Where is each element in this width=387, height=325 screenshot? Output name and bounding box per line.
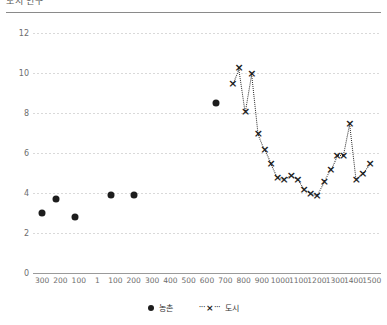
x-axis-tick-label: 1000 (271, 276, 290, 285)
plot-area: 0246810123002001001100200300400500600700… (33, 33, 381, 273)
legend-item[interactable]: ···×···도시 (199, 302, 239, 313)
gridline-y-4 (33, 193, 381, 194)
data-point-농촌 (72, 214, 79, 221)
gridline-y-8 (33, 113, 381, 114)
line-segment (349, 123, 356, 179)
y-axis-tick-label: 10 (19, 69, 29, 78)
data-point-도시 (267, 159, 276, 168)
data-point-도시 (260, 145, 269, 154)
gridline-y-10 (33, 73, 381, 74)
y-axis-tick-label: 12 (19, 29, 29, 38)
y-axis-tick-label: 0 (24, 269, 29, 278)
data-point-도시 (254, 129, 263, 138)
data-point-도시 (247, 69, 256, 78)
gridline-y-12 (33, 33, 381, 34)
legend-circle-icon (148, 305, 154, 311)
x-axis-tick-label: 300 (145, 276, 159, 285)
y-axis-tick-label: 6 (24, 149, 29, 158)
x-axis-tick-label: 500 (182, 276, 196, 285)
data-point-도시 (241, 107, 250, 116)
gridline-y-6 (33, 153, 381, 154)
data-point-농촌 (39, 210, 46, 217)
chart-legend: 농촌···×···도시 (0, 302, 387, 313)
x-axis-tick-label: 700 (218, 276, 232, 285)
gridline-y-2 (33, 233, 381, 234)
x-axis-tick-label: 300 (35, 276, 49, 285)
x-axis-tick-label: 400 (163, 276, 177, 285)
chart-page: 도시 인구 0246810123002001001100200300400500… (0, 0, 387, 325)
data-point-도시 (345, 119, 354, 128)
legend-item[interactable]: 농촌 (148, 302, 173, 313)
data-point-도시 (320, 177, 329, 186)
x-axis-tick-label: 1500 (362, 276, 381, 285)
x-axis-tick-label: 1 (95, 276, 100, 285)
data-point-도시 (235, 63, 244, 72)
y-axis-tick-label: 2 (24, 229, 29, 238)
page-title: 도시 인구 (6, 0, 43, 7)
x-axis-tick-label: 800 (236, 276, 250, 285)
legend-label: 농촌 (159, 302, 173, 313)
data-point-도시 (339, 151, 348, 160)
x-axis-tick-label: 200 (127, 276, 141, 285)
line-segment (251, 73, 258, 133)
data-point-농촌 (130, 192, 137, 199)
x-axis-tick-label: 1200 (307, 276, 326, 285)
data-point-농촌 (52, 196, 59, 203)
data-point-도시 (312, 191, 321, 200)
y-axis-tick-label: 4 (24, 189, 29, 198)
data-point-도시 (358, 169, 367, 178)
data-point-농촌 (107, 192, 114, 199)
data-point-도시 (228, 79, 237, 88)
x-axis-tick-label: 600 (200, 276, 214, 285)
x-axis-tick-label: 900 (255, 276, 269, 285)
data-point-도시 (366, 159, 375, 168)
gridline-y-0 (33, 273, 381, 274)
x-axis-tick-label: 1100 (289, 276, 308, 285)
data-point-농촌 (213, 100, 220, 107)
legend-label: 도시 (225, 302, 239, 313)
x-axis-tick-label: 1400 (344, 276, 363, 285)
x-axis-tick-label: 200 (53, 276, 67, 285)
x-axis-tick-label: 1300 (326, 276, 345, 285)
legend-dotted-x-icon: ···×··· (199, 303, 220, 313)
data-point-도시 (326, 165, 335, 174)
y-axis-tick-label: 8 (24, 109, 29, 118)
header-divider (6, 12, 381, 13)
x-axis-tick-label: 100 (72, 276, 86, 285)
x-axis-tick-label: 100 (108, 276, 122, 285)
